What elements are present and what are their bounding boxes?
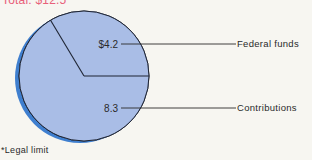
legend-label-federal-funds: Federal funds bbox=[237, 38, 299, 49]
value-label-contributions: 8.3 bbox=[104, 103, 118, 114]
pie-chart: $4.2Federal funds8.3Contributions bbox=[0, 0, 312, 160]
legend-label-contributions: Contributions bbox=[237, 102, 297, 113]
footnote: *Legal limit bbox=[1, 145, 49, 155]
value-label-federal-funds: $4.2 bbox=[99, 39, 119, 50]
